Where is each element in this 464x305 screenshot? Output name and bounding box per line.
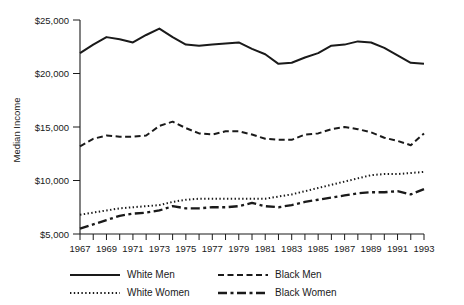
x-tick-label: 1989 bbox=[361, 243, 382, 254]
legend-label-white-women: White Women bbox=[127, 287, 190, 298]
median-income-line-chart: Median Income $5,000$10,000$15,000$20,00… bbox=[0, 0, 464, 305]
x-axis-ticks: 1967196919711973197519771979198119831985… bbox=[69, 234, 434, 254]
x-tick-label: 1993 bbox=[413, 243, 434, 254]
y-axis-ticks: $5,000$10,000$15,000$20,000$25,000 bbox=[35, 15, 80, 240]
x-tick-label: 1971 bbox=[122, 243, 143, 254]
chart-legend: White MenBlack MenWhite WomenBlack Women bbox=[70, 269, 337, 298]
x-tick-label: 1969 bbox=[96, 243, 117, 254]
y-axis-title: Median Income bbox=[11, 98, 22, 163]
series-line-black-men bbox=[80, 122, 424, 147]
x-tick-label: 1979 bbox=[228, 243, 249, 254]
legend-label-black-women: Black Women bbox=[275, 287, 337, 298]
x-tick-label: 1991 bbox=[387, 243, 408, 254]
x-tick-label: 1981 bbox=[255, 243, 276, 254]
x-tick-label: 1985 bbox=[308, 243, 329, 254]
x-tick-label: 1967 bbox=[69, 243, 90, 254]
x-tick-label: 1973 bbox=[149, 243, 170, 254]
x-tick-label: 1983 bbox=[281, 243, 302, 254]
y-tick-label: $15,000 bbox=[35, 122, 69, 133]
x-tick-label: 1987 bbox=[334, 243, 355, 254]
data-series-group bbox=[80, 29, 424, 229]
series-line-black-women bbox=[80, 189, 424, 229]
chart-container: Median Income $5,000$10,000$15,000$20,00… bbox=[0, 0, 464, 305]
y-tick-label: $25,000 bbox=[35, 15, 69, 26]
y-tick-label: $10,000 bbox=[35, 175, 69, 186]
legend-label-white-men: White Men bbox=[127, 269, 175, 280]
y-tick-label: $5,000 bbox=[40, 229, 69, 240]
y-tick-label: $20,000 bbox=[35, 68, 69, 79]
y-axis-title-text: Median Income bbox=[11, 98, 22, 163]
x-tick-label: 1977 bbox=[202, 243, 223, 254]
legend-label-black-men: Black Men bbox=[275, 269, 322, 280]
series-line-white-men bbox=[80, 29, 424, 64]
x-tick-label: 1975 bbox=[175, 243, 196, 254]
